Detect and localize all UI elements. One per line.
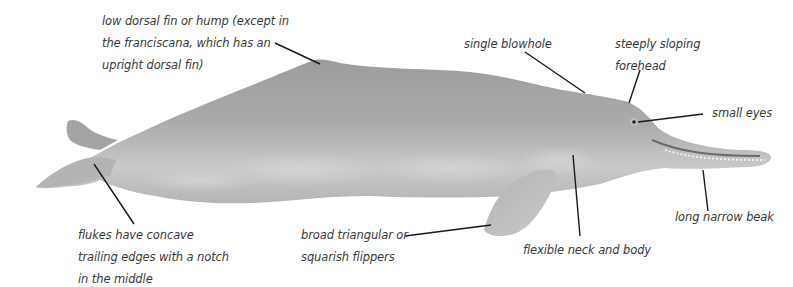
label-dorsal-fin: low dorsal fin or hump (except in the fr…	[102, 10, 289, 76]
label-flippers: broad triangular or squarish flippers	[301, 224, 408, 268]
leader-flippers	[405, 225, 491, 236]
label-eyes: small eyes	[712, 102, 772, 124]
label-neck: flexible neck and body	[523, 239, 651, 261]
leader-beak	[703, 170, 708, 211]
label-forehead: steeply sloping forehead	[615, 33, 700, 77]
upper-fluke	[67, 120, 118, 150]
label-beak: long narrow beak	[675, 206, 774, 228]
label-flukes: flukes have concave trailing edges with …	[78, 224, 229, 287]
lower-fluke	[36, 157, 116, 187]
label-blowhole: single blowhole	[464, 33, 552, 55]
